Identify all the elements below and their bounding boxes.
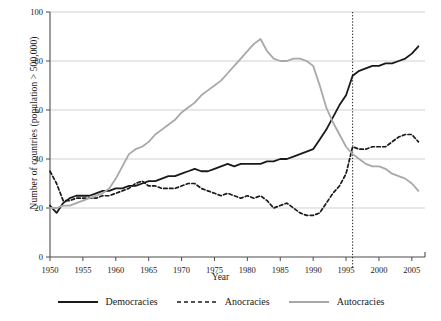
- chart-figure: 020406080100 195019551960196519701975198…: [0, 0, 441, 321]
- legend-swatch-anocracies: [176, 297, 218, 307]
- legend-item-autocracies: Autocracies: [288, 296, 385, 307]
- svg-text:0: 0: [39, 252, 43, 262]
- legend-label: Democracies: [106, 296, 158, 307]
- legend-item-democracies: Democracies: [57, 296, 158, 307]
- data-series: [50, 39, 418, 215]
- chart-legend: DemocraciesAnocraciesAutocracies: [0, 296, 441, 307]
- legend-swatch-democracies: [57, 297, 99, 307]
- legend-swatch-autocracies: [288, 297, 330, 307]
- legend-label: Anocracies: [225, 296, 270, 307]
- grid-lines: [50, 12, 425, 208]
- legend-label: Autocracies: [337, 296, 385, 307]
- axis-spines: [50, 12, 425, 257]
- y-axis-label: Number of countries (population > 500,00…: [29, 3, 39, 243]
- legend-item-anocracies: Anocracies: [176, 296, 270, 307]
- x-axis-label: Year: [0, 272, 441, 282]
